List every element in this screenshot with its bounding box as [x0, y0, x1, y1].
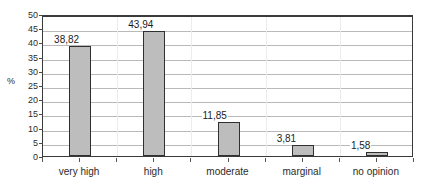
x-axis-tick-mark [265, 158, 266, 162]
y-axis-tick-label: 20 [16, 95, 38, 105]
bar [292, 145, 314, 156]
bar-value-label: 11,85 [202, 110, 228, 121]
gridline [43, 74, 412, 75]
x-axis-tick-mark [153, 158, 154, 162]
x-axis-tick-label: moderate [190, 166, 264, 178]
bar [218, 122, 240, 156]
y-axis-tick-label: 50 [16, 10, 38, 20]
x-axis-tick-mark [413, 158, 414, 162]
x-axis-tick-mark [42, 158, 43, 162]
x-axis-tick-mark [79, 158, 80, 162]
y-axis-tick-mark [39, 43, 43, 44]
category-divider [117, 17, 118, 156]
gridline [43, 31, 412, 32]
bar-value-label: 38,82 [53, 34, 80, 45]
y-axis-tick-label: 5 [16, 138, 38, 148]
y-axis-tick-mark [39, 129, 43, 130]
y-axis-tick-mark [39, 143, 43, 144]
x-axis-tick-label: high [116, 166, 190, 178]
category-divider [340, 17, 341, 156]
x-axis-tick-mark [376, 158, 377, 162]
gridline [43, 45, 412, 46]
x-axis-tick-label: no opinion [339, 166, 413, 178]
y-axis-tick-label: 15 [16, 109, 38, 119]
bar-value-label: 1,58 [350, 140, 371, 151]
x-axis-tick-mark [302, 158, 303, 162]
x-axis-tick-mark [228, 158, 229, 162]
y-axis-tick-label: 25 [16, 81, 38, 91]
y-axis-unit-label: % [3, 76, 15, 86]
gridline [43, 102, 412, 103]
y-axis-tick-label: 30 [16, 67, 38, 77]
gridline [43, 60, 412, 61]
y-axis-tick-mark [39, 86, 43, 87]
category-divider [191, 17, 192, 156]
y-axis-tick-label: 35 [16, 53, 38, 63]
x-axis-tick-mark [190, 158, 191, 162]
bar [366, 152, 388, 156]
x-axis-tick-label: very high [42, 166, 116, 178]
x-axis-tick-mark [339, 158, 340, 162]
gridline [43, 88, 412, 89]
y-axis-tick-label: 10 [16, 124, 38, 134]
x-axis-tick-mark [116, 158, 117, 162]
y-axis-tick-mark [39, 15, 43, 16]
category-divider [266, 17, 267, 156]
y-axis-tick-mark [39, 114, 43, 115]
y-axis-tick-labels: 50454035302520151050 [16, 10, 38, 162]
bar-value-label: 43,94 [127, 19, 154, 30]
y-axis-tick-label: 0 [16, 152, 38, 162]
bar-value-label: 3,81 [276, 133, 297, 144]
x-axis-tick-labels: very highhighmoderatemarginalno opinion [42, 166, 413, 182]
y-axis-tick-label: 45 [16, 24, 38, 34]
bar-chart-figure: % 50454035302520151050 38,8243,9411,853,… [0, 0, 422, 188]
y-axis-tick-mark [39, 58, 43, 59]
y-axis-tick-mark [39, 29, 43, 30]
bar [143, 31, 165, 156]
bar [69, 46, 91, 156]
x-axis-tick-label: marginal [265, 166, 339, 178]
y-axis-tick-mark [39, 72, 43, 73]
y-axis-tick-label: 40 [16, 38, 38, 48]
y-axis-tick-mark [39, 100, 43, 101]
plot-area: 38,8243,9411,853,811,58 [42, 15, 413, 157]
